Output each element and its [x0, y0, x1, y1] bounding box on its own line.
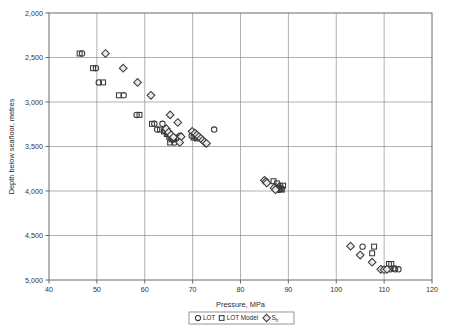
axis-ticks: 4050607080901001101202,0002,5003,0003,50… — [25, 9, 438, 294]
y-tick-label: 2,000 — [25, 9, 43, 18]
legend-label-subscript: h — [276, 318, 279, 323]
data-point — [119, 64, 127, 72]
data-point — [147, 91, 155, 99]
data-point — [360, 244, 365, 249]
y-tick-label: 3,500 — [25, 142, 43, 151]
y-tick-label: 3,000 — [25, 98, 43, 107]
scatter-chart: 4050607080901001101202,0002,5003,0003,50… — [0, 0, 449, 334]
data-point — [370, 251, 375, 256]
chart-canvas: 4050607080901001101202,0002,5003,0003,50… — [0, 0, 449, 334]
data-point — [174, 119, 182, 127]
data-point — [134, 79, 142, 87]
x-tick-label: 110 — [378, 285, 389, 294]
data-point — [356, 251, 364, 259]
data-point — [372, 244, 377, 249]
y-tick-label: 5,000 — [25, 276, 43, 285]
x-tick-label: 90 — [284, 285, 292, 294]
data-point — [102, 50, 110, 58]
x-tick-label: 120 — [426, 285, 438, 294]
y-tick-label: 2,500 — [25, 53, 43, 62]
data-point — [166, 111, 174, 119]
x-tick-label: 70 — [189, 285, 197, 294]
legend-label: LOT Model — [227, 314, 259, 321]
data-point — [368, 258, 376, 266]
y-tick-label: 4,000 — [25, 187, 43, 196]
chart-legend: LOTLOT ModelSh — [189, 312, 294, 324]
y-axis-title: Depth below seafloor, metres — [7, 98, 16, 194]
x-axis-title: Pressure, MPa — [216, 300, 266, 309]
x-tick-label: 80 — [237, 285, 245, 294]
legend-label: LOT — [203, 314, 216, 321]
x-tick-label: 50 — [93, 285, 101, 294]
y-tick-label: 4,500 — [25, 231, 43, 240]
series-lot-model — [77, 51, 396, 271]
data-point — [347, 242, 355, 250]
data-point — [160, 121, 165, 126]
x-tick-label: 60 — [141, 285, 149, 294]
x-tick-label: 40 — [45, 285, 53, 294]
x-tick-label: 100 — [330, 285, 342, 294]
data-point — [211, 127, 216, 132]
